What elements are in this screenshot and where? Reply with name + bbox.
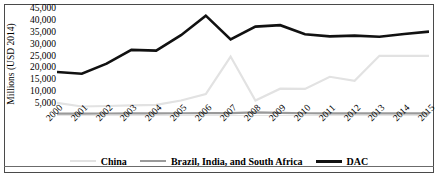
series-line: [57, 16, 429, 74]
legend-item[interactable]: DAC: [316, 156, 369, 167]
y-axis-tick-label: 40,000: [16, 16, 56, 26]
x-axis-tick-labels: 2000200120022003200420052006200720082009…: [57, 116, 429, 150]
y-axis-tick-label: 20,000: [16, 63, 56, 73]
legend-color-swatch: [140, 160, 166, 162]
series-line: [57, 56, 429, 107]
legend-item[interactable]: Brazil, India, and South Africa: [140, 156, 303, 167]
legend-item[interactable]: China: [70, 156, 127, 167]
line-chart-svg: [57, 9, 429, 116]
y-axis-tick-label: 25,000: [16, 52, 56, 62]
chart-legend: ChinaBrazil, India, and South AfricaDAC: [4, 150, 434, 172]
y-axis-tick-label: 15,000: [16, 75, 56, 85]
y-axis-tick-label: 35,000: [16, 28, 56, 38]
y-axis-tick-label: 30,000: [16, 40, 56, 50]
legend-label: China: [101, 156, 127, 167]
plot-area: [57, 9, 429, 116]
y-axis-tick-label: 45,000: [16, 4, 56, 14]
legend-label: Brazil, India, and South Africa: [171, 156, 303, 167]
y-axis-tick-label: 10,000: [16, 87, 56, 97]
legend-label: DAC: [347, 156, 369, 167]
legend-divider: [4, 166, 434, 167]
legend-color-swatch: [316, 160, 342, 163]
chart-figure: Millions (USD 2014) 5,00010,00015,00020,…: [0, 0, 438, 177]
y-axis-tick-label: 5,000: [16, 99, 56, 109]
legend-color-swatch: [70, 160, 96, 162]
